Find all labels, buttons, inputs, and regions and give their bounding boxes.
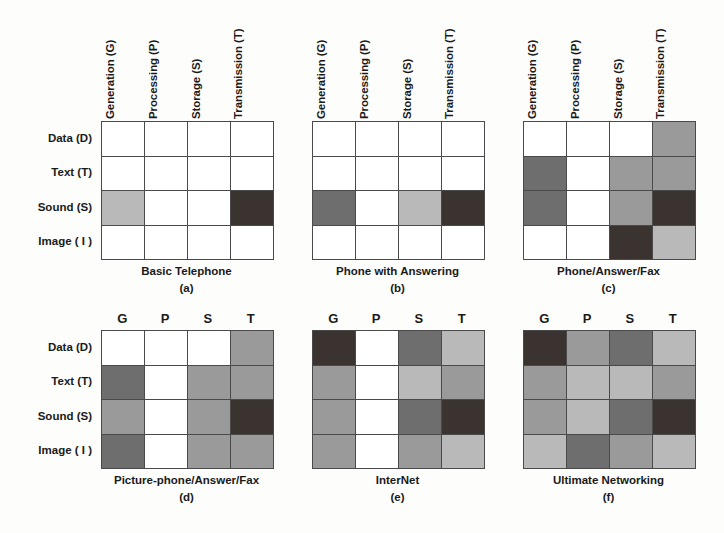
matrix-cell [524, 157, 566, 191]
column-header-t: Transmission (T) [653, 15, 667, 119]
column-header-g: Generation (G) [525, 15, 539, 119]
matrix-cell [145, 331, 187, 365]
row-label-2: Sound (S) [9, 399, 101, 433]
column-header-t: T [440, 310, 483, 330]
matrix-cell [442, 366, 484, 400]
matrix-cell [188, 226, 230, 260]
matrix-cell [610, 435, 652, 469]
matrix-grid-a [101, 121, 274, 260]
matrix-cell [231, 435, 273, 469]
matrix-cell [313, 191, 355, 225]
matrix-grid-e [312, 330, 485, 469]
matrix-cell [524, 400, 566, 434]
row-label-1: Text (T) [9, 155, 101, 189]
matrix-cell [145, 226, 187, 260]
matrix-cell [524, 191, 566, 225]
matrix-cell [567, 226, 609, 260]
column-header-p: Processing (P) [146, 15, 160, 119]
matrix-cell [231, 191, 273, 225]
matrix-cell [102, 226, 144, 260]
column-header-s: Storage (S) [189, 15, 203, 119]
matrix-cell [442, 435, 484, 469]
matrix-cell [442, 331, 484, 365]
matrix-cell [524, 331, 566, 365]
matrix-cell [231, 122, 273, 156]
matrix-cell [399, 400, 441, 434]
matrix-cell [102, 331, 144, 365]
matrix-cell [399, 366, 441, 400]
matrix-grid-f [523, 330, 696, 469]
matrix-cell [653, 366, 695, 400]
matrix-cell [442, 122, 484, 156]
matrix-cell [102, 400, 144, 434]
matrix-cell [313, 122, 355, 156]
column-header-g: G [523, 310, 566, 330]
matrix-cell [313, 366, 355, 400]
matrix-cell [231, 366, 273, 400]
matrix-cell [188, 366, 230, 400]
matrix-cell [524, 226, 566, 260]
matrix-grid-d [101, 330, 274, 469]
matrix-cell [653, 122, 695, 156]
matrix-cell [399, 226, 441, 260]
matrix-cell [313, 400, 355, 434]
matrix-panel-d: GPSTData (D)Text (T)Sound (S)Image ( I )… [101, 330, 274, 469]
column-headers: GPST [101, 310, 272, 330]
matrix-cell [442, 157, 484, 191]
matrix-cell [188, 191, 230, 225]
matrix-cell [145, 122, 187, 156]
matrix-cell [567, 331, 609, 365]
matrix-cell [231, 226, 273, 260]
matrix-cell [653, 226, 695, 260]
matrix-cell [399, 331, 441, 365]
matrix-cell [102, 435, 144, 469]
matrix-cell [356, 331, 398, 365]
matrix-cell [188, 400, 230, 434]
matrix-cell [145, 191, 187, 225]
matrix-cell [399, 157, 441, 191]
matrix-cell [442, 191, 484, 225]
matrix-cell [399, 191, 441, 225]
column-header-s: S [398, 310, 441, 330]
matrix-cell [610, 400, 652, 434]
matrix-panel-c: Generation (G)Processing (P)Storage (S)T… [523, 121, 696, 260]
panel-caption-c: Phone/Answer/Fax [483, 265, 724, 277]
column-header-s: Storage (S) [400, 15, 414, 119]
matrix-cell [653, 191, 695, 225]
column-header-s: Storage (S) [611, 15, 625, 119]
matrix-cell [653, 157, 695, 191]
row-label-3: Image ( I ) [9, 433, 101, 467]
matrix-grid-c [523, 121, 696, 260]
column-header-p: Processing (P) [357, 15, 371, 119]
matrix-cell [399, 435, 441, 469]
column-header-g: G [312, 310, 355, 330]
matrix-cell [610, 366, 652, 400]
matrix-cell [524, 366, 566, 400]
row-label-0: Data (D) [9, 121, 101, 155]
panel-label-c: (c) [483, 282, 724, 294]
matrix-cell [567, 400, 609, 434]
matrix-cell [356, 226, 398, 260]
matrix-cell [524, 122, 566, 156]
matrix-cell [231, 157, 273, 191]
matrix-cell [524, 435, 566, 469]
panel-label-f: (f) [483, 491, 724, 503]
matrix-cell [567, 191, 609, 225]
row-labels: Data (D)Text (T)Sound (S)Image ( I ) [9, 121, 101, 258]
matrix-cell [145, 157, 187, 191]
matrix-cell [442, 226, 484, 260]
matrix-cell [102, 122, 144, 156]
matrix-cell [442, 400, 484, 434]
row-label-3: Image ( I ) [9, 224, 101, 258]
column-header-s: S [609, 310, 652, 330]
matrix-panel-e: GPSTInterNet(e) [312, 330, 485, 469]
column-header-t: T [651, 310, 694, 330]
matrix-cell [145, 366, 187, 400]
matrix-cell [145, 400, 187, 434]
figure-canvas: Generation (G)Processing (P)Storage (S)T… [0, 0, 724, 533]
matrix-cell [610, 122, 652, 156]
row-labels: Data (D)Text (T)Sound (S)Image ( I ) [9, 330, 101, 467]
matrix-panel-b: Generation (G)Processing (P)Storage (S)T… [312, 121, 485, 260]
matrix-cell [356, 366, 398, 400]
matrix-cell [610, 191, 652, 225]
